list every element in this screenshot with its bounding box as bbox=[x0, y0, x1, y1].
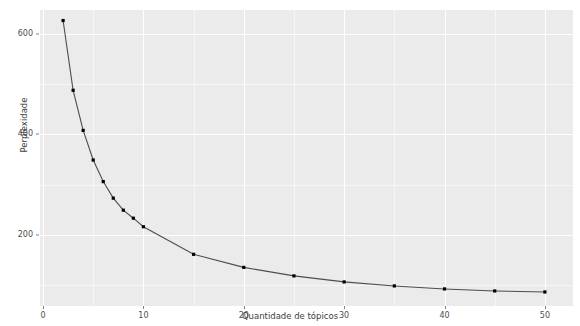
y-tick-mark bbox=[36, 134, 39, 135]
data-point bbox=[493, 289, 496, 292]
series-layer bbox=[40, 10, 573, 306]
data-point bbox=[343, 280, 346, 283]
data-point bbox=[443, 287, 446, 290]
series-markers bbox=[61, 19, 546, 294]
data-point bbox=[92, 158, 95, 161]
perplexity-line-chart: 200400600 01020304050 Perplexidade Quant… bbox=[0, 0, 580, 326]
data-point bbox=[292, 274, 295, 277]
y-tick-label: 600 bbox=[0, 30, 33, 38]
data-point bbox=[192, 253, 195, 256]
plot-panel bbox=[40, 10, 573, 306]
x-tick-mark bbox=[344, 306, 345, 309]
y-tick-mark bbox=[36, 34, 39, 35]
data-point bbox=[102, 180, 105, 183]
series-line bbox=[63, 21, 545, 292]
data-point bbox=[242, 266, 245, 269]
x-tick-mark bbox=[143, 306, 144, 309]
x-axis-title: Quantidade de tópicos bbox=[0, 311, 580, 321]
x-tick-mark bbox=[43, 306, 44, 309]
data-point bbox=[72, 89, 75, 92]
data-point bbox=[82, 129, 85, 132]
data-point bbox=[112, 197, 115, 200]
x-tick-mark bbox=[244, 306, 245, 309]
data-point bbox=[393, 284, 396, 287]
x-tick-mark bbox=[445, 306, 446, 309]
y-axis-title: Perplexidade bbox=[19, 65, 29, 185]
x-tick-mark bbox=[545, 306, 546, 309]
data-point bbox=[142, 225, 145, 228]
data-point bbox=[61, 19, 64, 22]
data-point bbox=[122, 209, 125, 212]
y-tick-mark bbox=[36, 234, 39, 235]
y-tick-label: 200 bbox=[0, 231, 33, 239]
data-point bbox=[543, 290, 546, 293]
data-point bbox=[132, 217, 135, 220]
